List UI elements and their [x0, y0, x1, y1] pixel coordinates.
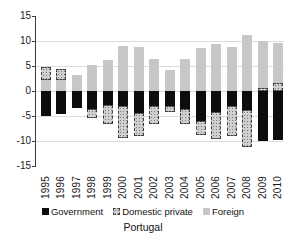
bar-1998-foreign: [87, 65, 97, 91]
bar-2004-domestic: [180, 109, 190, 124]
legend-label: Domestic private: [122, 206, 193, 217]
legend-item-government: Government: [42, 206, 103, 217]
legend-item-foreign: Foreign: [203, 206, 244, 217]
bar-2003-foreign: [165, 70, 175, 92]
bar-2002-domestic: [149, 106, 159, 125]
legend-label: Government: [51, 206, 103, 217]
bar-2001-government: [134, 91, 144, 113]
bar-1996-government: [56, 91, 66, 114]
bar-2003-domestic: [165, 106, 175, 112]
bar-1998-government: [87, 91, 97, 109]
y-axis-tick: [32, 66, 36, 67]
y-tick-label: 10: [6, 36, 31, 46]
bar-2010-government: [273, 91, 283, 140]
y-axis-tick: [32, 141, 36, 142]
bar-2009-government: [258, 91, 268, 141]
bar-1999-government: [103, 91, 113, 105]
bar-2007-government: [227, 91, 237, 106]
y-tick-label: -15: [6, 161, 31, 171]
bar-1998-domestic: [87, 109, 97, 119]
bar-1995-domestic: [41, 67, 51, 80]
bar-2004-government: [180, 91, 190, 109]
bar-2006-domestic: [211, 112, 221, 140]
bar-2003-government: [165, 91, 175, 106]
legend: GovernmentDomestic privateForeign: [0, 206, 286, 217]
plot-area: [36, 16, 284, 166]
bar-1995-government: [41, 91, 51, 116]
y-tick-label: -10: [6, 136, 31, 146]
bar-2010-domestic: [273, 83, 283, 92]
bar-2002-foreign: [149, 59, 159, 92]
x-tick-label-2010: 2010: [261, 169, 286, 205]
bar-1996-domestic: [56, 69, 66, 81]
bar-2010-foreign: [273, 43, 283, 83]
bar-2005-government: [196, 91, 206, 121]
y-axis-tick: [32, 16, 36, 17]
bar-2008-foreign: [242, 35, 252, 92]
bar-2009-foreign: [258, 41, 268, 88]
y-tick-label: -5: [6, 111, 31, 121]
bar-1997-government: [72, 91, 82, 108]
stacked-bar-chart: GovernmentDomestic privateForeign Portug…: [0, 0, 286, 239]
bar-2000-government: [118, 91, 128, 106]
legend-swatch-foreign: [203, 208, 210, 215]
bar-2000-domestic: [118, 106, 128, 138]
legend-label: Foreign: [212, 206, 244, 217]
bar-2000-foreign: [118, 46, 128, 91]
y-axis-tick: [32, 166, 36, 167]
bar-2005-foreign: [196, 48, 206, 92]
y-tick-label: 15: [6, 11, 31, 21]
y-tick-label: 5: [6, 61, 31, 71]
bar-2004-foreign: [180, 59, 190, 91]
bar-1999-domestic: [103, 105, 113, 125]
y-axis-tick: [32, 116, 36, 117]
bar-1999-foreign: [103, 60, 113, 92]
bar-2005-domestic: [196, 121, 206, 135]
bar-2001-domestic: [134, 113, 144, 136]
y-tick-label: 0: [6, 86, 31, 96]
y-axis-tick: [32, 91, 36, 92]
bar-2006-foreign: [211, 44, 221, 91]
bar-2002-government: [149, 91, 159, 106]
bar-2006-government: [211, 91, 221, 112]
legend-item-domestic: Domestic private: [113, 206, 193, 217]
legend-swatch-government: [42, 208, 49, 215]
bar-2007-foreign: [227, 47, 237, 91]
bar-1996-foreign: [56, 80, 66, 91]
y-axis-tick: [32, 41, 36, 42]
bar-2001-foreign: [134, 47, 144, 92]
bar-1995-foreign: [41, 80, 51, 91]
bar-1997-foreign: [72, 75, 82, 91]
bar-2008-domestic: [242, 110, 252, 148]
bar-2007-domestic: [227, 106, 237, 136]
chart-title: Portugal: [0, 221, 286, 233]
legend-swatch-domestic: [113, 208, 120, 215]
bar-2008-government: [242, 91, 252, 110]
